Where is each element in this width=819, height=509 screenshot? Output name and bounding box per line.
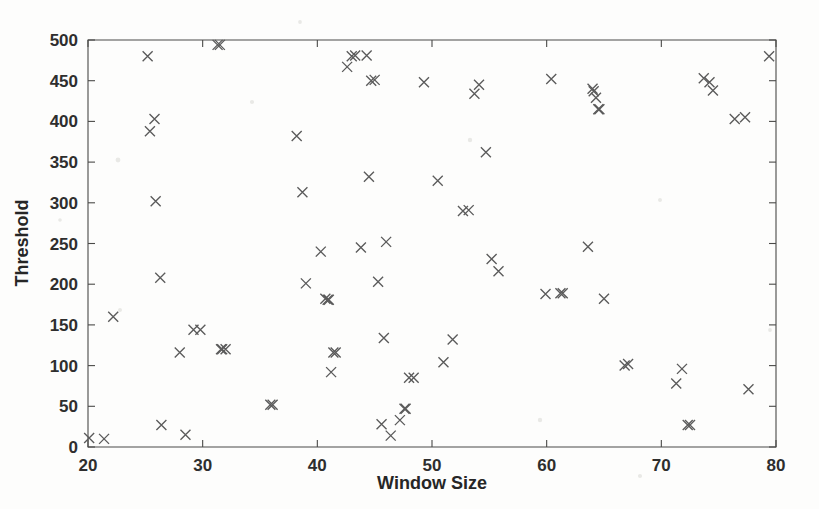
cross-marker — [469, 89, 479, 99]
cross-marker — [364, 172, 374, 182]
cross-marker — [381, 237, 391, 247]
cross-marker — [84, 433, 94, 443]
x-axis-title: Window Size — [377, 473, 487, 493]
x-tick-label: 40 — [308, 456, 327, 475]
x-axis-ticks: 20304050607080 — [79, 40, 786, 475]
cross-marker — [541, 289, 551, 299]
cross-marker — [356, 243, 366, 253]
cross-marker — [316, 247, 326, 257]
y-tick-label: 250 — [50, 235, 78, 254]
cross-marker — [494, 266, 504, 276]
cross-marker — [708, 85, 718, 95]
cross-marker — [373, 277, 383, 287]
cross-marker — [448, 335, 458, 345]
cross-marker — [487, 254, 497, 264]
cross-marker — [265, 400, 275, 410]
y-tick-label: 0 — [69, 438, 78, 457]
cross-marker — [481, 147, 491, 157]
cross-marker — [677, 364, 687, 374]
cross-marker — [342, 62, 352, 72]
x-tick-label: 80 — [767, 456, 786, 475]
cross-marker — [292, 131, 302, 141]
scan-noise — [58, 20, 772, 484]
cross-marker — [593, 104, 603, 114]
cross-marker — [685, 420, 695, 430]
scatter-plot-figure: 050100150200250300350400450500 203040506… — [0, 0, 819, 509]
x-tick-label: 20 — [79, 456, 98, 475]
cross-marker — [301, 278, 311, 288]
y-tick-label: 500 — [50, 31, 78, 50]
cross-marker — [438, 357, 448, 367]
y-tick-label: 50 — [59, 397, 78, 416]
y-tick-label: 150 — [50, 316, 78, 335]
cross-marker — [594, 104, 604, 114]
cross-marker — [764, 51, 774, 61]
cross-marker — [377, 419, 387, 429]
y-axis-title: Threshold — [12, 199, 32, 286]
cross-marker — [216, 344, 226, 354]
cross-marker — [409, 373, 419, 383]
cross-marker — [150, 114, 160, 124]
axis-frame — [88, 40, 776, 447]
cross-marker — [704, 77, 714, 87]
y-tick-label: 200 — [50, 275, 78, 294]
cross-marker — [433, 176, 443, 186]
x-tick-label: 70 — [652, 456, 671, 475]
cross-marker — [583, 242, 593, 252]
x-tick-label: 30 — [193, 456, 212, 475]
cross-marker — [555, 288, 565, 298]
cross-marker — [730, 114, 740, 124]
y-tick-label: 350 — [50, 153, 78, 172]
y-tick-label: 450 — [50, 72, 78, 91]
cross-marker — [145, 126, 155, 136]
y-tick-label: 400 — [50, 112, 78, 131]
cross-marker — [175, 348, 185, 358]
cross-marker — [546, 74, 556, 84]
cross-marker — [464, 205, 474, 215]
cross-marker — [671, 379, 681, 389]
cross-marker — [404, 373, 414, 383]
cross-marker — [599, 294, 609, 304]
cross-marker — [268, 400, 278, 410]
y-tick-label: 300 — [50, 194, 78, 213]
cross-marker — [215, 40, 225, 50]
cross-marker — [156, 420, 166, 430]
plot-axes — [88, 40, 776, 447]
cross-marker — [331, 348, 341, 358]
cross-marker — [623, 359, 633, 369]
cross-marker — [474, 80, 484, 90]
cross-marker — [683, 420, 693, 430]
plot-canvas: 050100150200250300350400450500 203040506… — [0, 0, 819, 509]
cross-marker — [143, 51, 153, 61]
cross-marker — [399, 404, 409, 414]
y-tick-label: 100 — [50, 357, 78, 376]
cross-marker — [155, 273, 165, 283]
y-axis-ticks: 050100150200250300350400450500 — [50, 31, 776, 457]
cross-marker — [740, 112, 750, 122]
cross-marker — [108, 312, 118, 322]
x-tick-label: 60 — [537, 456, 556, 475]
cross-marker — [743, 384, 753, 394]
cross-marker — [99, 434, 109, 444]
cross-marker — [195, 325, 205, 335]
cross-marker — [620, 361, 630, 371]
cross-marker — [362, 50, 372, 60]
cross-marker — [326, 367, 336, 377]
cross-marker — [558, 288, 568, 298]
cross-marker — [699, 73, 709, 83]
data-point-layer — [84, 40, 774, 444]
cross-marker — [395, 415, 405, 425]
cross-marker — [297, 187, 307, 197]
cross-marker — [151, 196, 161, 206]
cross-marker — [180, 430, 190, 440]
cross-marker — [386, 431, 396, 441]
cross-marker — [419, 77, 429, 87]
cross-marker — [379, 333, 389, 343]
cross-marker — [328, 348, 338, 358]
cross-marker — [213, 40, 223, 50]
cross-marker — [401, 404, 411, 414]
